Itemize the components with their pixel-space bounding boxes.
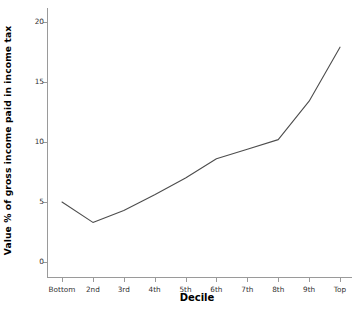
- series-polyline: [62, 47, 340, 222]
- plot-area: 05101520 Bottom2nd3rd4th5th6th7th8th9thT…: [47, 8, 352, 278]
- x-tick-mark: [278, 278, 279, 282]
- x-tick-mark: [93, 278, 94, 282]
- y-axis-title-label: Value % of gross income paid in income t…: [3, 25, 14, 255]
- x-tick-mark: [155, 278, 156, 282]
- x-tick-mark: [124, 278, 125, 282]
- x-tick-mark: [340, 278, 341, 282]
- y-tick-label: 5: [39, 197, 44, 206]
- line-chart: Value % of gross income paid in income t…: [0, 0, 362, 314]
- y-tick-label: 10: [35, 137, 44, 146]
- data-series-line: [47, 8, 352, 278]
- y-tick-label: 20: [35, 17, 44, 26]
- y-tick-label: 0: [39, 257, 44, 266]
- x-tick-mark: [62, 278, 63, 282]
- x-tick-mark: [247, 278, 248, 282]
- x-tick-mark: [309, 278, 310, 282]
- y-axis-title: Value % of gross income paid in income t…: [0, 0, 16, 280]
- y-tick-label: 15: [35, 77, 44, 86]
- x-tick-mark: [186, 278, 187, 282]
- x-axis-title: Decile: [47, 292, 347, 303]
- x-tick-mark: [216, 278, 217, 282]
